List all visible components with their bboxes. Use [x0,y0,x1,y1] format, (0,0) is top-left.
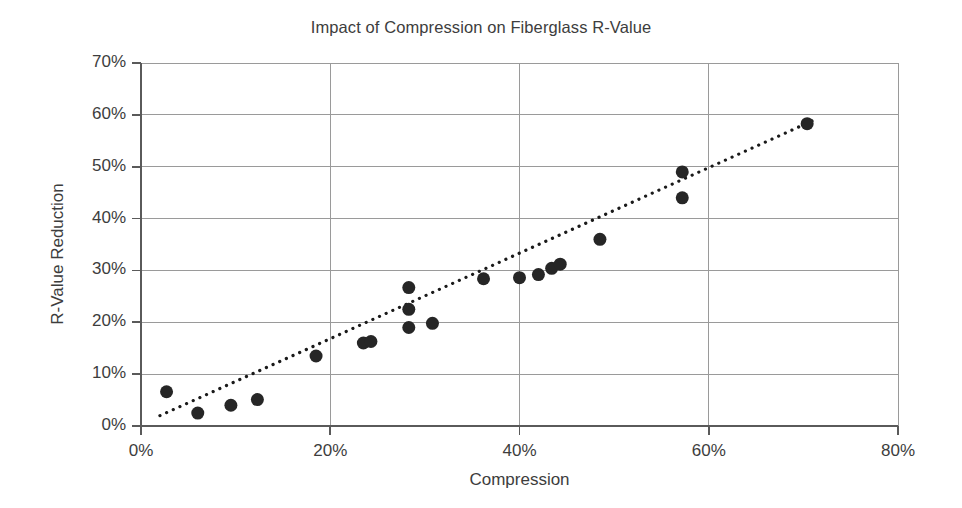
axes [132,63,898,435]
data-point [251,393,264,406]
plot-area [0,0,962,508]
chart-container: Impact of Compression on Fiberglass R-Va… [0,0,962,508]
data-point [477,272,490,285]
data-point [402,303,415,316]
data-point [513,271,526,284]
trendline [160,118,818,415]
data-point [402,321,415,334]
data-point [676,165,689,178]
data-point [402,281,415,294]
data-point [160,385,173,398]
grid-lines [141,63,898,426]
data-point [191,407,204,420]
data-point [224,399,237,412]
data-point [676,191,689,204]
data-point [554,258,567,271]
data-point [426,317,439,330]
data-point [593,233,606,246]
data-point [364,335,377,348]
data-point [310,349,323,362]
data-point [801,117,814,130]
data-point [532,268,545,281]
